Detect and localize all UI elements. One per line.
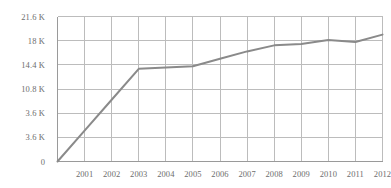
x-axis-tick-label: 2009 — [293, 169, 310, 179]
x-axis: 2001200220032004200520062007200820092010… — [0, 0, 391, 188]
x-axis-tick-label: 2005 — [184, 169, 201, 179]
line-chart: 21.6 K18 K14.4 K10.8 K3.6 K3.6 K0 200120… — [0, 0, 391, 188]
x-axis-tick-label: 2003 — [130, 169, 147, 179]
x-axis-tick-label: 2002 — [103, 169, 120, 179]
x-axis-tick-label: 2012 — [374, 169, 391, 179]
x-axis-tick-label: 2006 — [211, 169, 228, 179]
x-axis-tick-label: 2004 — [157, 169, 174, 179]
x-axis-tick-label: 2007 — [238, 169, 255, 179]
x-axis-tick-label: 2010 — [320, 169, 337, 179]
x-axis-tick-label: 2011 — [347, 169, 364, 179]
x-axis-tick-label: 2001 — [76, 169, 93, 179]
x-axis-tick-label: 2008 — [265, 169, 282, 179]
